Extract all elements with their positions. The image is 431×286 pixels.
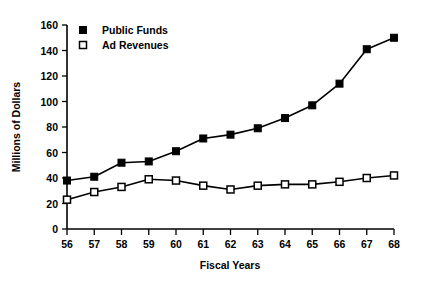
y-axis-title: Millions of Dollars xyxy=(10,82,22,173)
y-tick-label: 20 xyxy=(46,198,58,210)
series-layer xyxy=(64,34,398,203)
series-line xyxy=(67,38,394,181)
y-tick-label: 120 xyxy=(40,70,58,82)
x-tick-label: 61 xyxy=(197,238,209,250)
x-tick-label: 67 xyxy=(361,238,373,250)
data-point xyxy=(200,135,207,142)
data-point xyxy=(336,80,343,87)
data-point xyxy=(118,159,125,166)
data-point xyxy=(173,148,180,155)
data-point xyxy=(145,176,152,183)
y-tick-label: 60 xyxy=(46,147,58,159)
x-tick-label: 64 xyxy=(279,238,291,250)
data-point xyxy=(200,182,207,189)
data-point xyxy=(363,175,370,182)
data-point xyxy=(64,177,71,184)
data-point xyxy=(391,34,398,41)
line-chart: 020406080100120140160 565758596061626364… xyxy=(0,0,431,286)
data-point xyxy=(391,172,398,179)
data-point xyxy=(64,196,71,203)
data-point xyxy=(282,181,289,188)
x-tick-label: 62 xyxy=(225,238,237,250)
x-axis-title: Fiscal Years xyxy=(200,259,261,271)
chart-legend: Public FundsAd Revenues xyxy=(80,24,169,51)
y-tick-label: 0 xyxy=(52,223,58,235)
data-point xyxy=(227,131,234,138)
data-point xyxy=(91,173,98,180)
y-tick-label: 140 xyxy=(40,45,58,57)
data-point xyxy=(254,125,261,132)
x-tick-label: 63 xyxy=(252,238,264,250)
data-point xyxy=(309,181,316,188)
data-point xyxy=(282,115,289,122)
x-tick-label: 65 xyxy=(306,238,318,250)
x-tick-label: 58 xyxy=(116,238,128,250)
data-point xyxy=(118,183,125,190)
x-tick-label: 59 xyxy=(143,238,155,250)
data-point xyxy=(145,158,152,165)
x-tick-label: 56 xyxy=(61,238,73,250)
x-axis: 56575859606162636465666768 xyxy=(61,229,400,250)
x-tick-label: 60 xyxy=(170,238,182,250)
series-1 xyxy=(64,34,398,184)
series-2 xyxy=(64,172,398,203)
data-point xyxy=(173,177,180,184)
chart-canvas: 020406080100120140160 565758596061626364… xyxy=(0,0,431,286)
x-tick-label: 68 xyxy=(388,238,400,250)
y-tick-label: 40 xyxy=(46,172,58,184)
legend-label: Public Funds xyxy=(102,24,168,36)
data-point xyxy=(309,102,316,109)
data-point xyxy=(227,186,234,193)
legend-item: Public Funds xyxy=(80,24,169,36)
legend-marker-filled-square xyxy=(80,27,87,34)
data-point xyxy=(91,189,98,196)
data-point xyxy=(363,46,370,53)
data-point xyxy=(254,182,261,189)
legend-marker-open-square xyxy=(80,42,87,49)
y-tick-label: 80 xyxy=(46,121,58,133)
legend-item: Ad Revenues xyxy=(80,39,169,51)
y-tick-label: 100 xyxy=(40,96,58,108)
x-tick-label: 57 xyxy=(88,238,100,250)
legend-label: Ad Revenues xyxy=(102,39,169,51)
data-point xyxy=(336,178,343,185)
x-tick-label: 66 xyxy=(334,238,346,250)
y-tick-label: 160 xyxy=(40,19,58,31)
